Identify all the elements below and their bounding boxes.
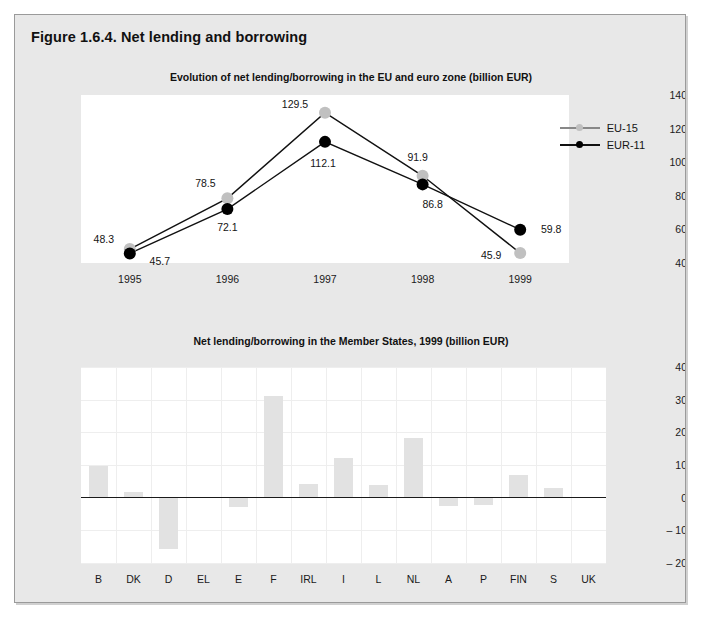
bar-chart-gridline-v xyxy=(361,367,362,563)
bar-chart-y-tick: 10 xyxy=(629,459,686,471)
data-point-eu-15-1999 xyxy=(514,247,526,259)
line-chart-x-tick: 1999 xyxy=(509,273,532,285)
data-label-eur-11-1997: 112.1 xyxy=(310,157,336,169)
line-chart-y-tick: 80 xyxy=(629,190,686,202)
legend-swatch-eu15 xyxy=(560,122,600,133)
bar-chart-gridline-v xyxy=(431,367,432,563)
figure-panel: Figure 1.6.4. Net lending and borrowing … xyxy=(14,14,686,603)
bar-B xyxy=(89,466,107,497)
bar-chart-gridline-v xyxy=(466,367,467,563)
line-chart-x-tick: 1995 xyxy=(118,273,141,285)
bar-IRL xyxy=(299,484,317,497)
bar-chart-y-tick: – 10 xyxy=(629,524,686,536)
bar-chart: Net lending/borrowing in the Member Stat… xyxy=(15,335,686,600)
bar-chart-x-tick: A xyxy=(445,573,452,585)
bar-E xyxy=(229,498,247,507)
bar-chart-y-tick: 30 xyxy=(629,394,686,406)
line-chart-y-tick: 40 xyxy=(629,257,686,269)
bar-L xyxy=(369,485,387,498)
bar-chart-x-tick: UK xyxy=(581,573,596,585)
bar-FIN xyxy=(509,475,527,498)
bar-chart-gridline-v xyxy=(186,367,187,563)
bar-chart-x-tick: IRL xyxy=(300,573,316,585)
bar-chart-y-tick: 0 xyxy=(629,492,686,504)
bar-chart-x-tick: S xyxy=(550,573,557,585)
line-chart-y-tick: 60 xyxy=(629,223,686,235)
bar-chart-x-tick: L xyxy=(376,573,382,585)
bar-A xyxy=(439,498,457,507)
bar-chart-gridline-v xyxy=(396,367,397,563)
bar-D xyxy=(159,498,177,550)
data-point-eur-11-1999 xyxy=(514,224,526,236)
legend-label-eur11: EUR-11 xyxy=(607,139,645,151)
bar-I xyxy=(334,458,352,498)
bar-chart-plot-area xyxy=(81,367,606,563)
data-point-eu-15-1997 xyxy=(319,107,331,119)
bar-chart-x-tick: P xyxy=(480,573,487,585)
bar-chart-gridline-h xyxy=(81,563,606,564)
data-label-eur-11-1999: 59.8 xyxy=(541,223,561,235)
line-chart-x-tick: 1997 xyxy=(313,273,336,285)
bar-chart-y-tick: 40 xyxy=(629,361,686,373)
line-chart-x-tick: 1996 xyxy=(216,273,239,285)
bar-chart-x-tick: EL xyxy=(197,573,210,585)
data-label-eur-11-1998: 86.8 xyxy=(422,198,442,210)
bar-chart-x-tick: FIN xyxy=(510,573,527,585)
line-series-eu-15 xyxy=(130,113,520,253)
data-label-eur-11-1995: 45.7 xyxy=(150,255,170,267)
bar-chart-x-tick: F xyxy=(270,573,276,585)
data-point-eur-11-1997 xyxy=(319,136,331,148)
bar-chart-gridline-v xyxy=(221,367,222,563)
bar-chart-x-tick: E xyxy=(235,573,242,585)
bar-NL xyxy=(404,438,422,497)
bar-chart-gridline-v xyxy=(116,367,117,563)
data-point-eur-11-1998 xyxy=(417,178,429,190)
bar-chart-gridline-v xyxy=(536,367,537,563)
figure-title: Figure 1.6.4. Net lending and borrowing xyxy=(31,29,307,45)
bar-chart-x-tick: B xyxy=(95,573,102,585)
bar-chart-gridline-h xyxy=(81,400,606,401)
bar-chart-gridline-v xyxy=(291,367,292,563)
bar-chart-gridline-v xyxy=(256,367,257,563)
data-label-eu-15-1998: 91.9 xyxy=(407,151,427,163)
data-label-eu-15-1995: 48.3 xyxy=(94,233,114,245)
bar-chart-gridline-v xyxy=(571,367,572,563)
bar-chart-gridline-v xyxy=(326,367,327,563)
data-label-eu-15-1996: 78.5 xyxy=(195,177,215,189)
bar-chart-x-tick: I xyxy=(342,573,345,585)
legend-item-eu15: EU-15 xyxy=(560,119,645,136)
legend-item-eur11: EUR-11 xyxy=(560,136,645,153)
line-chart-plot-area xyxy=(81,95,569,263)
line-chart-legend: EU-15 EUR-11 xyxy=(560,119,645,153)
line-chart-svg xyxy=(81,95,569,263)
bar-chart-gridline-v xyxy=(501,367,502,563)
line-chart-y-tick: 140 xyxy=(629,89,686,101)
bar-F xyxy=(264,396,282,497)
line-chart-x-tick: 1998 xyxy=(411,273,434,285)
bar-chart-x-tick: NL xyxy=(407,573,420,585)
line-chart: Evolution of net lending/borrowing in th… xyxy=(15,71,686,301)
bar-chart-x-tick: D xyxy=(165,573,173,585)
data-label-eu-15-1999: 45.9 xyxy=(481,249,501,261)
data-label-eu-15-1997: 129.5 xyxy=(282,98,308,110)
line-chart-title: Evolution of net lending/borrowing in th… xyxy=(15,71,686,83)
bar-chart-gridline-h xyxy=(81,432,606,433)
legend-label-eu15: EU-15 xyxy=(607,122,638,134)
line-chart-y-tick: 100 xyxy=(629,156,686,168)
bar-chart-gridline-h xyxy=(81,367,606,368)
data-point-eur-11-1995 xyxy=(124,247,136,259)
bar-chart-gridline-v xyxy=(151,367,152,563)
legend-swatch-eur11 xyxy=(560,139,600,150)
bar-chart-y-tick: 20 xyxy=(629,426,686,438)
bar-chart-title: Net lending/borrowing in the Member Stat… xyxy=(15,335,686,347)
bar-chart-zero-line xyxy=(81,497,606,499)
data-point-eu-15-1996 xyxy=(221,192,233,204)
data-point-eur-11-1996 xyxy=(221,203,233,215)
bar-chart-y-tick: – 20 xyxy=(629,557,686,569)
data-label-eur-11-1996: 72.1 xyxy=(217,221,237,233)
bar-P xyxy=(474,498,492,506)
bar-chart-x-tick: DK xyxy=(126,573,141,585)
